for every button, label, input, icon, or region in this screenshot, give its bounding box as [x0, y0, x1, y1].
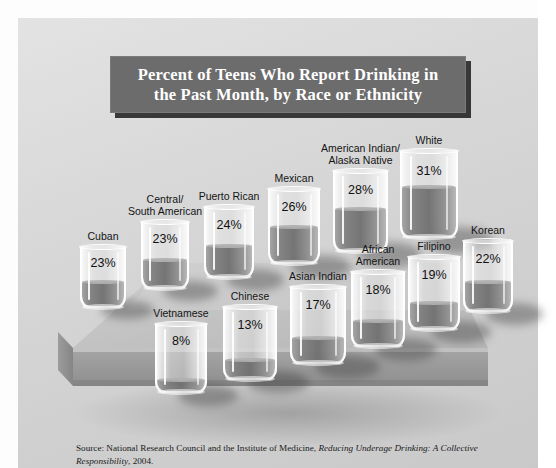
- glass-7: Vietnamese8%: [155, 323, 207, 393]
- glass-percent-value: 17%: [290, 298, 346, 312]
- glass-label: Chinese: [231, 291, 270, 303]
- glass-percent-value: 8%: [155, 334, 207, 348]
- glass-label-line-1: Central/: [128, 194, 202, 206]
- glass-label: Asian Indian: [289, 271, 347, 283]
- glass-label-line-1: American Indian/: [321, 143, 400, 155]
- source-prefix: Source: National Research Council and th…: [76, 443, 318, 453]
- glass-label-line-1: Korean: [471, 225, 505, 237]
- glass-label-line-1: White: [416, 135, 443, 147]
- glass-percent-value: 23%: [141, 232, 189, 246]
- infographic-panel: Percent of Teens Who Report Drinking in …: [18, 18, 538, 468]
- glass-rim: [399, 148, 459, 154]
- glass-2: Central/South American23%: [141, 221, 189, 289]
- glass-5: American Indian/Alaska Native28%: [333, 170, 388, 252]
- glass-rim: [462, 238, 514, 244]
- glass-percent-value: 26%: [268, 200, 320, 214]
- glass-base: [206, 274, 252, 280]
- glass-rim: [407, 254, 461, 260]
- glass-rim: [222, 304, 278, 310]
- glass-percent-value: 19%: [408, 268, 460, 282]
- glass-percent-value: 18%: [351, 283, 405, 297]
- glass-label-line-2: Alaska Native: [321, 155, 400, 167]
- glass-base: [270, 260, 318, 266]
- glass-base: [410, 326, 458, 332]
- glass-label: White: [416, 135, 443, 147]
- glass-label-line-1: Puerto Rican: [199, 191, 260, 203]
- glass-percent-value: 31%: [400, 164, 458, 178]
- glass-percent-value: 28%: [333, 183, 388, 197]
- glass-rim: [289, 284, 347, 290]
- glass-label-line-1: African: [356, 244, 400, 256]
- glass-percent-value: 13%: [223, 318, 277, 332]
- glass-3: Puerto Rican24%: [204, 206, 254, 278]
- source-suffix: , 2004.: [128, 456, 153, 466]
- glass-label: Puerto Rican: [199, 191, 260, 203]
- glass-label: American Indian/Alaska Native: [321, 143, 400, 166]
- glass-label: Mexican: [274, 173, 313, 185]
- glass-base: [157, 389, 205, 395]
- glass-body: [204, 206, 254, 278]
- glass-rim: [154, 321, 208, 327]
- glass-rim: [350, 269, 406, 275]
- glass-4: Mexican26%: [268, 188, 320, 264]
- glass-label: Korean: [471, 225, 505, 237]
- glass-base: [225, 376, 275, 382]
- glass-label-line-1: Vietnamese: [153, 308, 208, 320]
- glass-percent-value: 23%: [80, 256, 126, 270]
- glass-percent-value: 24%: [204, 218, 254, 232]
- glass-rim: [203, 204, 255, 210]
- glass-label: Vietnamese: [153, 308, 208, 320]
- glass-6: White31%: [400, 150, 458, 238]
- source-note: Source: National Research Council and th…: [76, 442, 496, 467]
- glass-label-line-1: Asian Indian: [289, 271, 347, 283]
- glass-label: Cuban: [88, 231, 119, 243]
- glass-1: Cuban23%: [80, 246, 126, 308]
- glass-base: [353, 343, 403, 349]
- glass-rim: [332, 168, 389, 174]
- glass-label: AfricanAmerican: [356, 244, 400, 267]
- glass-label-line-1: Filipino: [417, 241, 450, 253]
- glass-percent-value: 22%: [463, 252, 513, 266]
- glass-label-line-2: South American: [128, 206, 202, 218]
- glass-label-line-1: Mexican: [274, 173, 313, 185]
- glass-rim: [79, 244, 127, 250]
- glass-11: Filipino19%: [408, 256, 460, 330]
- glass-base: [143, 285, 187, 291]
- glass-body: [463, 240, 513, 312]
- glass-label: Central/South American: [128, 194, 202, 217]
- glass-rim: [267, 186, 321, 192]
- glass-base: [465, 308, 511, 314]
- glass-10: AfricanAmerican18%: [351, 271, 405, 347]
- glass-label-line-1: Chinese: [231, 291, 270, 303]
- glass-rim: [140, 219, 190, 225]
- glass-9: Asian Indian17%: [290, 286, 346, 364]
- glass-8: Chinese13%: [223, 306, 277, 380]
- glass-label: Filipino: [417, 241, 450, 253]
- glass-12: Korean22%: [463, 240, 513, 312]
- glass-label-line-2: American: [356, 256, 400, 268]
- glass-base: [82, 304, 124, 310]
- glass-label-line-1: Cuban: [88, 231, 119, 243]
- glass-chart: Cuban23%Central/South American23%Puerto …: [18, 18, 556, 468]
- glass-base: [292, 360, 344, 366]
